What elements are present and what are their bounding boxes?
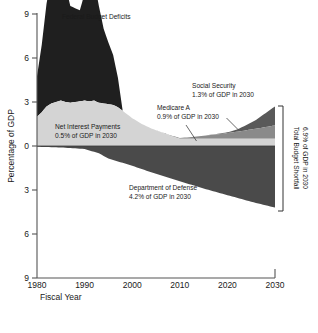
annotation-medicare-line2: 0.9% of GDP in 2030 [157,113,219,120]
x-tick-label: 1980 [28,280,47,290]
annotation-defense-line2: 4.2% of GDP in 2030 [129,193,191,200]
annotation-federal-budget-deficits: Federal Budget Deficits [62,13,131,21]
annotation-medicare-line1: Medicare A [157,104,191,111]
y-tick-label: 3 [24,185,29,195]
y-tick-label: 3 [24,97,29,107]
x-tick-label: 1990 [75,280,94,290]
annotation-social-security-line2: 1.3% of GDP in 2030 [192,91,254,98]
y-tick-label: 0 [24,141,29,151]
budget-chart: 9630369 198019902000201020202030 Percent… [0,0,318,333]
x-tick-label: 2000 [123,280,142,290]
y-tick-label: 6 [24,229,29,239]
y-tick-label: 9 [24,9,29,19]
annotation-defense-line1: Department of Defense [129,184,198,192]
annotation-net-interest-line1: Net Interest Payments [55,123,121,131]
x-axis-title: Fiscal Year [40,292,82,302]
annotation-total-shortfall-line1: Total Budget Shortfall [292,127,300,190]
annotation-total-shortfall-line2: 6.9% of GDP in 2030 [302,127,309,189]
annotation-net-interest-line2: 0.5% of GDP in 2030 [55,132,117,139]
x-tick-label: 2020 [218,280,237,290]
y-axis-title: Percentage of GDP [6,109,16,183]
x-tick-label: 2030 [266,280,285,290]
y-tick-label: 6 [24,53,29,63]
chart-canvas: 9630369 198019902000201020202030 Percent… [0,0,318,333]
annotation-social-security-line1: Social Security [192,82,236,90]
x-tick-label: 2010 [170,280,189,290]
